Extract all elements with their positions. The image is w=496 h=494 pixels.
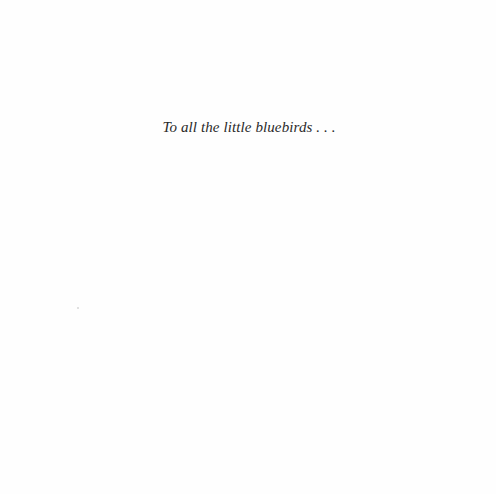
- dedication-text: To all the little bluebirds . . .: [0, 119, 496, 136]
- scan-artifact: [77, 307, 79, 309]
- document-page: To all the little bluebirds . . .: [0, 0, 496, 494]
